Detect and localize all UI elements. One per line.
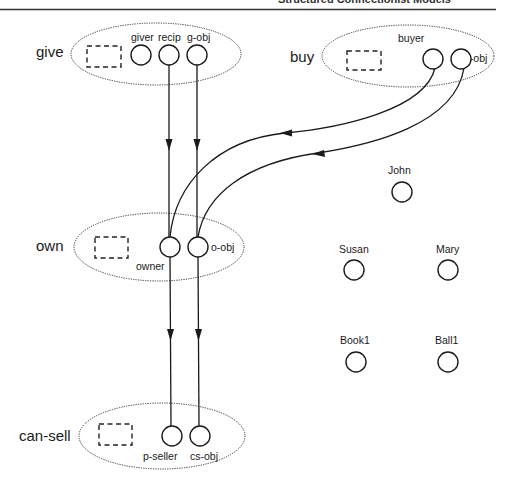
role-label-g-obj: g-obj [187,31,210,43]
node-recip [159,45,179,65]
node-giver [131,45,151,65]
frame-label-give: give [36,43,64,60]
frame-slot-own [95,237,128,258]
link-owner-p-seller [170,257,171,426]
role-label-p-seller: p-seller [143,450,178,462]
entity-label-book1: Book1 [340,334,370,346]
entity-label-susan: Susan [339,243,369,255]
entity-node-susan [344,260,364,280]
role-label-buyer: buyer [398,32,425,44]
frame-slot-can-sell [99,424,132,445]
frame-own: own owner o-obj [36,213,244,281]
link-o-obj-cs-obj [198,257,199,426]
role-label-cs-obj: cs-obj [190,450,218,462]
frame-ellipse-give [71,23,241,85]
frame-can-sell: can-sell p-seller cs-obj [19,403,245,469]
frame-slot-buy [347,51,381,70]
node-cs-obj [190,426,210,446]
node-owner [160,237,180,257]
role-label-owner: owner [136,260,165,272]
link-buyer-owner [170,68,435,237]
arrowhead-down-icon [194,139,201,151]
role-label-recip: recip [158,31,181,43]
running-title: Structured Connectionist Models [278,0,451,5]
arrowhead-left-icon [312,150,325,157]
frame-label-own: own [36,237,64,254]
arrowhead-down-icon [167,329,174,341]
entity-node-mary [438,260,458,280]
entity-node-ball1 [438,352,458,372]
frame-slot-give [87,46,121,67]
frame-label-buy: buy [290,48,315,65]
connectionist-diagram: Structured Connectionist Models give giv… [0,0,511,494]
node-p-seller [162,426,182,446]
role-label-giver: giver [131,31,154,43]
arrowhead-down-icon [195,329,202,341]
arrowhead-left-icon [280,130,292,137]
entity-node-book1 [346,352,366,372]
node-o-obj [188,237,208,257]
entity-label-mary: Mary [436,243,460,255]
node-b-obj [451,49,471,69]
entities: John Susan Mary Book1 Ball1 [339,164,460,372]
node-buyer [423,49,443,69]
page-header: Structured Connectionist Models [0,0,496,10]
role-nodes [131,45,471,446]
frame-label-can-sell: can-sell [19,427,71,444]
entity-label-john: John [388,164,411,176]
entity-node-john [392,182,412,202]
entity-label-ball1: Ball1 [435,334,459,346]
link-b-obj-o-obj [198,68,464,237]
role-label-o-obj: o-obj [211,241,234,253]
arrowhead-down-icon [166,139,173,151]
node-g-obj [187,45,207,65]
